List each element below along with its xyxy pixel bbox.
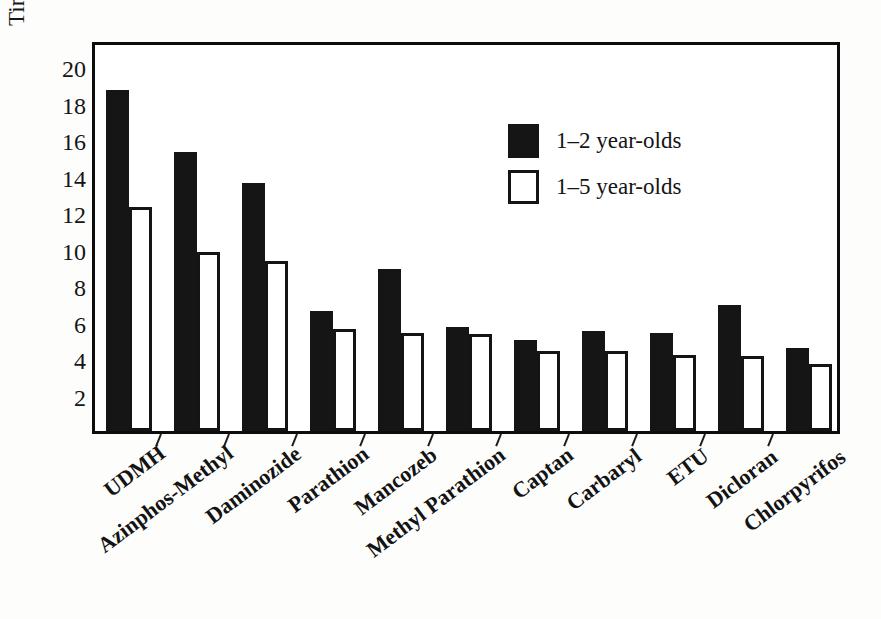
bar-age-1-2 [582, 331, 605, 431]
bar-chart-figure: Times greater than women's exposure 2468… [0, 0, 881, 619]
bar-group [231, 45, 299, 431]
bar-age-1-2 [174, 152, 197, 431]
plot-area [92, 42, 840, 434]
y-tick-label: 8 [44, 276, 86, 300]
legend-swatch-filled-icon [508, 124, 539, 158]
bar-age-1-5 [129, 207, 152, 431]
legend-label-1-2-year-olds: 1–2 year-olds [556, 128, 681, 154]
y-tick-label: 20 [44, 57, 86, 81]
bar-age-1-2 [106, 90, 129, 431]
bar-age-1-2 [718, 305, 741, 431]
bar-age-1-5 [605, 351, 628, 431]
legend-entry-1-2-year-olds: 1–2 year-olds [508, 118, 768, 164]
bar-age-1-2 [242, 183, 265, 431]
bar-group [163, 45, 231, 431]
bar-age-1-5 [809, 364, 832, 431]
bar-age-1-5 [333, 329, 356, 431]
y-tick-label: 2 [44, 386, 86, 410]
y-tick-label: 12 [44, 203, 86, 227]
y-tick-label: 18 [44, 94, 86, 118]
legend-swatch-outline-icon [508, 170, 539, 204]
bar-group [435, 45, 503, 431]
bar-age-1-5 [401, 333, 424, 431]
x-axis-category-labels: UDMHAzinphos-MethylDaminozideParathionMa… [0, 434, 881, 619]
y-axis-title-container: Times greater than women's exposure [0, 0, 44, 470]
bar-group [707, 45, 775, 431]
legend-label-1-5-year-olds: 1–5 year-olds [556, 174, 681, 200]
x-axis-label: ETU [662, 443, 714, 491]
y-tick-label: 16 [44, 130, 86, 154]
bar-group [299, 45, 367, 431]
bar-age-1-2 [514, 340, 537, 431]
y-tick-label: 10 [44, 240, 86, 264]
bar-age-1-5 [537, 351, 560, 431]
bar-age-1-2 [446, 327, 469, 431]
bar-group [503, 45, 571, 431]
legend-entry-1-5-year-olds: 1–5 year-olds [508, 164, 768, 210]
bar-age-1-5 [265, 261, 288, 431]
bar-age-1-2 [378, 269, 401, 431]
y-tick-label: 4 [44, 349, 86, 373]
legend: 1–2 year-olds 1–5 year-olds [508, 118, 768, 210]
y-tick-label: 14 [44, 167, 86, 191]
bar-age-1-5 [197, 252, 220, 431]
y-axis-title: Times greater than women's exposure [4, 0, 30, 26]
bar-age-1-5 [469, 334, 492, 431]
bar-age-1-2 [650, 333, 673, 431]
bar-group [775, 45, 843, 431]
bar-age-1-5 [741, 356, 764, 431]
bar-group [571, 45, 639, 431]
x-axis-label: Carbaryl [561, 443, 646, 516]
bar-group [639, 45, 707, 431]
bar-age-1-5 [673, 355, 696, 431]
bar-age-1-2 [310, 311, 333, 431]
bar-group [367, 45, 435, 431]
bars-container [95, 45, 837, 431]
y-axis-tick-labels: 2468101214161820 [44, 0, 90, 470]
y-tick-label: 6 [44, 313, 86, 337]
bar-age-1-2 [786, 348, 809, 431]
bar-group [95, 45, 163, 431]
